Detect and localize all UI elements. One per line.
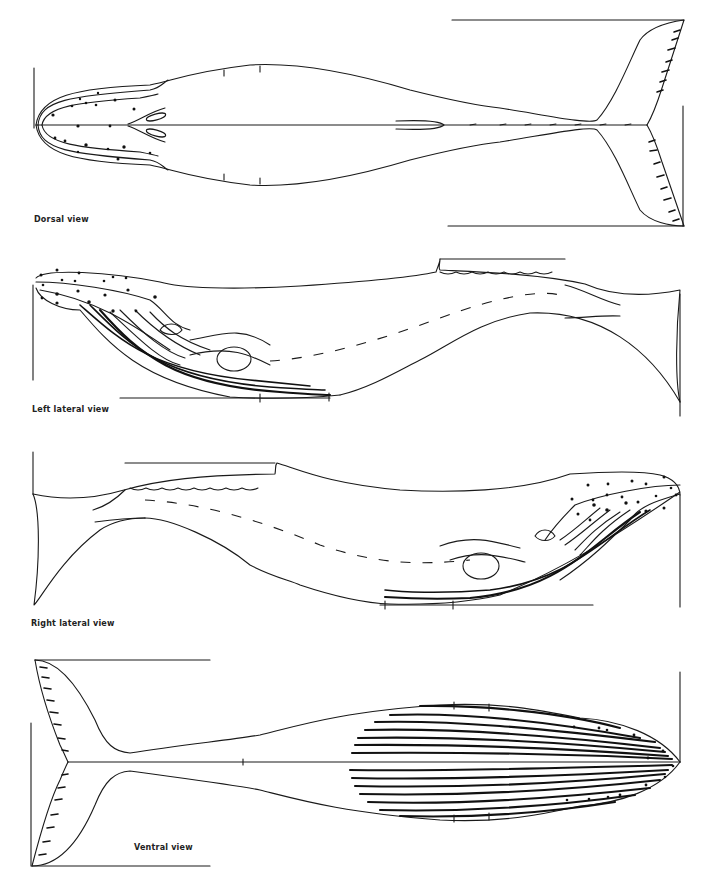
right-lateral-view-label: Right lateral view xyxy=(31,619,115,628)
ventral-view-label: Ventral view xyxy=(134,843,193,852)
ventral-pleats xyxy=(350,706,672,817)
whale-views-drawing xyxy=(0,0,701,876)
dorsal-view-drawing xyxy=(34,20,684,226)
left-lateral-view-drawing xyxy=(33,259,680,416)
right-lateral-view-drawing xyxy=(33,452,680,609)
ventral-view-drawing xyxy=(31,660,680,866)
left-lateral-view-label: Left lateral view xyxy=(32,405,109,414)
dorsal-view-label: Dorsal view xyxy=(34,215,89,224)
